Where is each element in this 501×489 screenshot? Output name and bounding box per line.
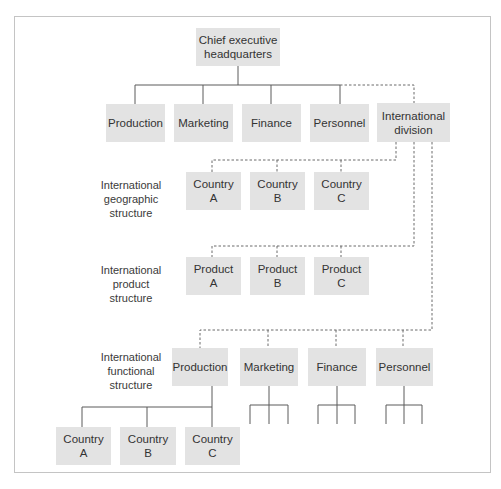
marketing-box: Marketing	[174, 104, 233, 142]
product-structure-label: International product structure	[86, 263, 176, 305]
geo-country-a-box: Country A	[186, 172, 241, 210]
product-a-box: Product A	[186, 257, 241, 295]
func-country-b-box: Country B	[120, 427, 176, 465]
geographic-structure-label: International geographic structure	[86, 178, 176, 220]
finance-box: Finance	[242, 104, 301, 142]
intl-production-box: Production	[172, 348, 228, 386]
intl-marketing-box: Marketing	[240, 348, 298, 386]
func-country-a-box: Country A	[56, 427, 111, 465]
product-b-box: Product B	[250, 257, 305, 295]
personnel-box: Personnel	[310, 104, 369, 142]
geo-country-c-box: Country C	[314, 172, 369, 210]
connector-lines	[0, 0, 501, 489]
intl-personnel-box: Personnel	[376, 348, 433, 386]
ceo-headquarters-box: Chief executive headquarters	[196, 28, 280, 66]
functional-structure-label: International functional structure	[86, 350, 176, 392]
func-country-c-box: Country C	[185, 427, 240, 465]
geo-country-b-box: Country B	[250, 172, 305, 210]
international-division-box: International division	[377, 103, 450, 142]
product-c-box: Product C	[314, 257, 369, 295]
intl-finance-box: Finance	[308, 348, 366, 386]
production-box: Production	[106, 104, 165, 142]
